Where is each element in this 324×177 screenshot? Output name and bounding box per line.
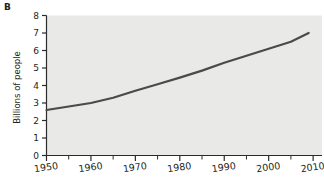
plot-background-group	[47, 16, 323, 156]
y-tick-label: 6	[33, 46, 39, 56]
y-tick-label: 5	[33, 63, 39, 73]
x-tick-label: 1990	[211, 160, 236, 174]
plot-area-background	[47, 16, 323, 156]
y-tick-label: 3	[33, 98, 39, 108]
x-tick-label: 1980	[167, 160, 192, 174]
y-tick-label: 2	[33, 116, 39, 126]
x-axis-ticks: 1950196019701980199020002010	[33, 156, 324, 175]
x-tick-label: 1950	[33, 160, 58, 174]
y-tick-label: 4	[33, 81, 39, 91]
y-tick-label: 1	[33, 133, 39, 143]
line-chart: 012345678 1950196019701980199020002010	[0, 0, 324, 177]
figure-panel-b: B Billions of people 012345678 195019601…	[0, 0, 324, 177]
x-tick-label: 1960	[78, 160, 103, 174]
x-tick-label: 2010	[300, 160, 324, 174]
x-tick-label: 2000	[255, 160, 280, 174]
y-axis-ticks: 012345678	[33, 11, 46, 161]
x-tick-label: 1970	[122, 160, 147, 174]
y-tick-label: 7	[33, 28, 39, 38]
y-tick-label: 0	[33, 151, 39, 161]
y-tick-label: 8	[33, 11, 39, 21]
